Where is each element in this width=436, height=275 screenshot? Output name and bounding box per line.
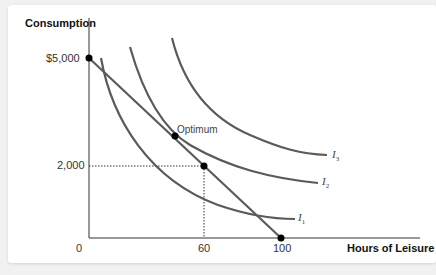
indifference-curve-i3 (172, 38, 327, 155)
budget-line (89, 58, 281, 238)
optimum-label: Optimum (177, 124, 218, 135)
chart-plot (0, 0, 436, 275)
i2-subscript: 2 (326, 182, 330, 190)
y-tick-2000: 2,000 (57, 159, 85, 171)
point-100 (278, 235, 285, 242)
x-tick-100: 100 (273, 242, 291, 254)
point-60-2000 (201, 163, 208, 170)
x-axis-label: Hours of Leisure (347, 242, 434, 254)
origin-label: 0 (76, 242, 82, 254)
y-axis-label: Consumption (25, 17, 96, 29)
indifference-curve-i1 (101, 58, 295, 219)
i1-subscript: 1 (302, 218, 306, 226)
x-tick-60: 60 (198, 242, 210, 254)
point-5000 (86, 55, 93, 62)
i3-label: I3 (332, 148, 339, 163)
i1-label: I1 (298, 211, 305, 226)
indifference-curve-i2 (130, 47, 318, 183)
y-tick-5000: $5,000 (46, 52, 80, 64)
i3-subscript: 3 (336, 155, 340, 163)
i2-label: I2 (322, 175, 329, 190)
